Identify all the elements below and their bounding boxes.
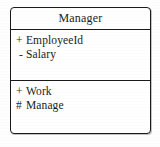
attribute-name-label: Salary [26, 47, 56, 61]
visibility-marker-private-icon: - [16, 47, 26, 61]
uml-class-box[interactable]: Manager + EmployeeId - Salary + Work # M… [10, 7, 151, 134]
operation-row: + Work [16, 84, 150, 98]
attributes-compartment: + EmployeeId - Salary [11, 30, 150, 81]
attribute-name-label: EmployeeId [26, 33, 83, 47]
operation-name-label: Manage [26, 98, 64, 112]
visibility-marker-public-icon: + [16, 84, 26, 98]
visibility-marker-public-icon: + [16, 33, 26, 47]
operation-name-label: Work [26, 84, 52, 98]
attribute-row: - Salary [16, 47, 150, 61]
operations-compartment: + Work # Manage [11, 81, 150, 133]
class-name-label: Manager [58, 12, 102, 25]
visibility-marker-protected-icon: # [16, 98, 26, 112]
class-name-compartment: Manager [11, 8, 150, 30]
diagram-canvas: Manager + EmployeeId - Salary + Work # M… [0, 0, 160, 147]
operation-row: # Manage [16, 98, 150, 112]
attribute-row: + EmployeeId [16, 33, 150, 47]
